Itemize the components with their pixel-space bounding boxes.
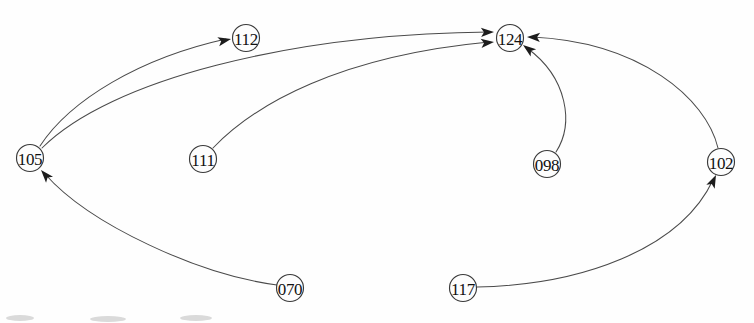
edge-102-to-124 bbox=[532, 37, 718, 148]
node-112[interactable]: 112 bbox=[233, 25, 260, 52]
node-label-112: 112 bbox=[234, 30, 258, 49]
edge-105-to-124 bbox=[42, 32, 489, 148]
node-label-070: 070 bbox=[278, 280, 303, 299]
edge-layer bbox=[40, 32, 718, 287]
node-070[interactable]: 070 bbox=[277, 275, 304, 302]
node-111[interactable]: 111 bbox=[190, 146, 217, 173]
node-label-111: 111 bbox=[191, 151, 214, 170]
node-layer: 105112111124098102070117 bbox=[17, 25, 735, 302]
scan-artifact bbox=[6, 315, 34, 321]
edge-117-to-102 bbox=[477, 180, 713, 287]
edge-111-to-124 bbox=[213, 42, 489, 148]
node-label-124: 124 bbox=[498, 30, 523, 49]
node-098[interactable]: 098 bbox=[534, 151, 561, 178]
node-label-098: 098 bbox=[535, 156, 560, 175]
node-label-117: 117 bbox=[451, 280, 476, 299]
node-124[interactable]: 124 bbox=[497, 25, 524, 52]
node-label-102: 102 bbox=[709, 154, 734, 173]
node-105[interactable]: 105 bbox=[17, 145, 44, 172]
node-102[interactable]: 102 bbox=[708, 149, 735, 176]
edge-070-to-105 bbox=[45, 174, 277, 285]
arrow-layer bbox=[38, 27, 721, 188]
graph-svg: 105112111124098102070117 bbox=[0, 0, 754, 323]
graph-canvas: 105112111124098102070117 bbox=[0, 0, 754, 323]
scan-artifact bbox=[180, 315, 212, 321]
node-label-105: 105 bbox=[18, 150, 43, 169]
scan-artifact bbox=[90, 316, 126, 322]
node-117[interactable]: 117 bbox=[450, 275, 477, 302]
edge-098-to-124 bbox=[527, 48, 566, 152]
